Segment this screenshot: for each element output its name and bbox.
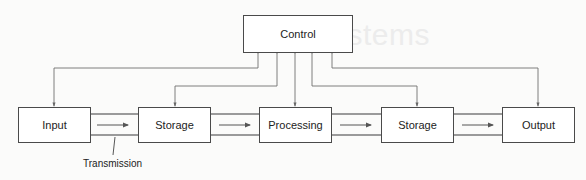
control-lines (54, 53, 538, 106)
output-label: Output (522, 119, 555, 131)
transmission-label: Transmission (83, 158, 142, 169)
output-block: Output (502, 107, 575, 143)
input-block: Input (18, 107, 91, 143)
control-label: Control (280, 28, 315, 40)
processing-label: Processing (268, 119, 322, 131)
storage-block-2: Storage (381, 107, 454, 143)
control-block: Control (243, 15, 353, 53)
transmission-leader-line (113, 137, 115, 155)
storage-block-1: Storage (138, 107, 211, 143)
storage-label-1: Storage (155, 119, 194, 131)
input-label: Input (42, 119, 66, 131)
storage-label-2: Storage (398, 119, 437, 131)
processing-block: Processing (259, 107, 332, 143)
